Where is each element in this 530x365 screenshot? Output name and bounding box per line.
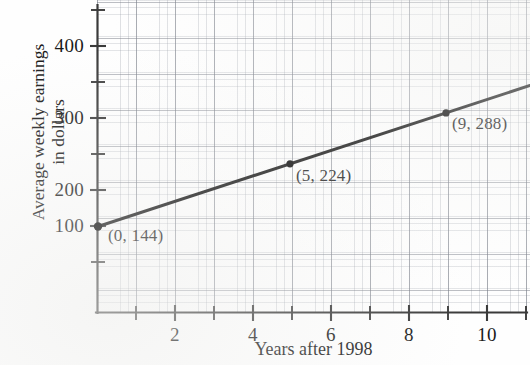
data-point-0 (94, 222, 102, 230)
y-axis-title-line1: Average weekly earnings (28, 22, 48, 242)
data-point-label-9: (9, 288) (452, 115, 507, 133)
data-point-label-0: (0, 144) (108, 227, 163, 245)
y-axis-title-line2: in dollars (48, 22, 68, 242)
y-axis-title: Average weekly earnings in dollars (28, 22, 68, 242)
data-point-5 (286, 160, 293, 167)
data-point-9 (442, 109, 449, 116)
line-chart-figure: 400 300 200 100 2 4 6 8 10 Average weekl… (0, 0, 530, 365)
data-point-label-5: (5, 224) (296, 167, 351, 185)
series-line-earnings (98, 86, 530, 227)
x-axis-title: Years after 1998 (97, 339, 530, 359)
